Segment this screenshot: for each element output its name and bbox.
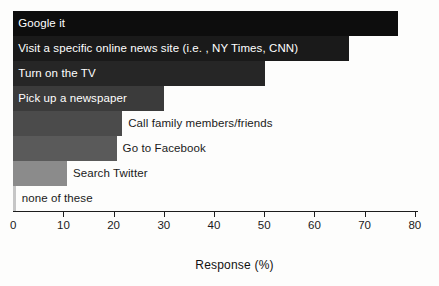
x-axis-line xyxy=(13,211,418,212)
bar-label-search-twitter: Search Twitter xyxy=(73,161,148,186)
bar-google-it xyxy=(13,11,398,36)
x-tick-10 xyxy=(63,212,64,217)
x-tick-80 xyxy=(415,212,416,217)
bar-label-google-it: Google it xyxy=(18,11,65,36)
bar-label-go-to-facebook: Go to Facebook xyxy=(123,136,206,161)
x-tick-40 xyxy=(214,212,215,217)
x-tick-50 xyxy=(264,212,265,217)
bar-label-none-of-these: none of these xyxy=(22,186,93,211)
x-tick-30 xyxy=(164,212,165,217)
x-tick-label-50: 50 xyxy=(249,219,279,231)
x-axis-title-text: Response (%) xyxy=(165,258,273,272)
x-tick-label-40: 40 xyxy=(199,219,229,231)
x-tick-label-70: 70 xyxy=(350,219,380,231)
bar-label-visit-news-site: Visit a specific online news site (i.e. … xyxy=(18,36,298,61)
x-tick-label-30: 30 xyxy=(149,219,179,231)
bar-chart: Google it Visit a specific online news s… xyxy=(0,0,439,286)
x-tick-70 xyxy=(365,212,366,217)
x-tick-label-10: 10 xyxy=(48,219,78,231)
bar-search-twitter xyxy=(13,161,67,186)
x-tick-60 xyxy=(314,212,315,217)
bar-call-family xyxy=(13,111,122,136)
bar-go-to-facebook xyxy=(13,136,116,161)
bar-label-turn-on-tv: Turn on the TV xyxy=(18,61,95,86)
x-tick-label-80: 80 xyxy=(400,219,430,231)
x-tick-label-20: 20 xyxy=(99,219,129,231)
bar-none-of-these xyxy=(13,186,16,211)
x-tick-label-60: 60 xyxy=(299,219,329,231)
plot-area: Google it Visit a specific online news s… xyxy=(0,0,439,215)
x-tick-20 xyxy=(114,212,115,217)
x-axis-title: Response (%) xyxy=(0,258,439,272)
bar-label-call-family: Call family members/friends xyxy=(128,111,273,136)
bar-label-pick-up-newspaper: Pick up a newspaper xyxy=(18,86,127,111)
x-tick-label-0: 0 xyxy=(0,219,28,231)
